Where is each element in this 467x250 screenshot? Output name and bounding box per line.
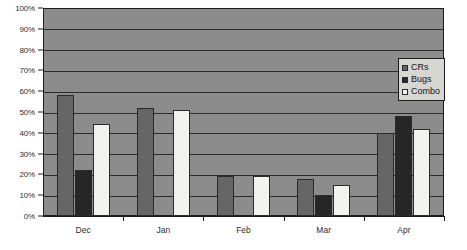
x-axis-tick bbox=[444, 216, 445, 221]
bar-group bbox=[284, 8, 364, 216]
x-axis-tick bbox=[123, 216, 124, 221]
bar-chart: 0%10%20%30%40%50%60%70%80%90%100% CRsBug… bbox=[0, 0, 467, 250]
bar-combo-jan bbox=[173, 110, 190, 216]
bar-crs-jan bbox=[137, 108, 154, 216]
legend-item-combo: Combo bbox=[402, 86, 440, 97]
bar-combo-feb bbox=[253, 176, 270, 216]
legend-label: Bugs bbox=[411, 74, 432, 85]
x-axis-label-feb: Feb bbox=[236, 225, 251, 235]
bar-combo-apr bbox=[413, 129, 430, 216]
y-axis-label: 30% bbox=[20, 149, 35, 158]
y-axis-label: 80% bbox=[20, 45, 35, 54]
legend-item-bugs: Bugs bbox=[402, 74, 440, 85]
bar-group bbox=[43, 8, 123, 216]
legend-swatch-icon bbox=[402, 65, 408, 71]
legend-label: Combo bbox=[411, 86, 440, 97]
bar-bugs-mar bbox=[315, 195, 332, 216]
legend-item-crs: CRs bbox=[402, 62, 440, 73]
y-axis-label: 90% bbox=[20, 24, 35, 33]
bar-combo-mar bbox=[333, 185, 350, 216]
bar-crs-mar bbox=[297, 179, 314, 216]
legend-swatch-icon bbox=[402, 77, 408, 83]
bar-group bbox=[364, 8, 444, 216]
x-axis-label-jan: Jan bbox=[156, 225, 170, 235]
bars-layer bbox=[43, 8, 444, 216]
x-axis-tick bbox=[284, 216, 285, 221]
x-axis-tick bbox=[364, 216, 365, 221]
x-axis-label-apr: Apr bbox=[397, 225, 410, 235]
chart-legend: CRsBugsCombo bbox=[398, 58, 445, 101]
bar-crs-dec bbox=[57, 95, 74, 216]
y-axis-label: 10% bbox=[20, 191, 35, 200]
y-axis: 0%10%20%30%40%50%60%70%80%90%100% bbox=[0, 0, 43, 250]
y-axis-label: 100% bbox=[15, 4, 35, 13]
bar-crs-apr bbox=[377, 133, 394, 216]
x-axis-label-dec: Dec bbox=[76, 225, 91, 235]
x-axis-tick bbox=[203, 216, 204, 221]
bar-bugs-apr bbox=[395, 116, 412, 216]
legend-label: CRs bbox=[411, 62, 429, 73]
bar-group bbox=[123, 8, 203, 216]
x-axis-label-mar: Mar bbox=[316, 225, 331, 235]
bar-combo-dec bbox=[93, 124, 110, 216]
bar-group bbox=[203, 8, 283, 216]
y-axis-label: 50% bbox=[20, 108, 35, 117]
y-axis-label: 60% bbox=[20, 87, 35, 96]
bar-bugs-dec bbox=[75, 170, 92, 216]
y-axis-label: 40% bbox=[20, 128, 35, 137]
bar-crs-feb bbox=[217, 176, 234, 216]
y-axis-label: 70% bbox=[20, 66, 35, 75]
legend-swatch-icon bbox=[402, 89, 408, 95]
x-axis-line bbox=[43, 216, 444, 217]
y-axis-label: 0% bbox=[24, 212, 35, 221]
y-axis-label: 20% bbox=[20, 170, 35, 179]
